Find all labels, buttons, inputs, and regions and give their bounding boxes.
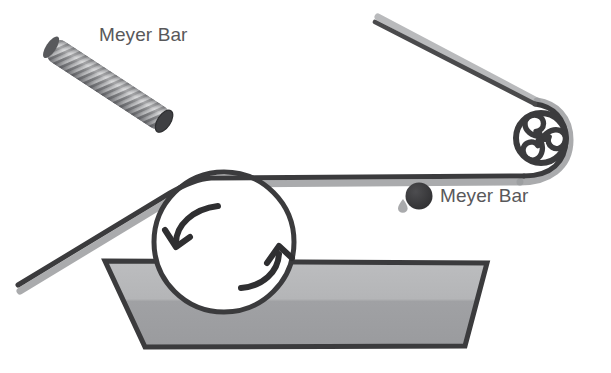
meyer-bar-coating-diagram: Meyer Bar Meyer Bar [0,0,611,373]
grooved-pinwheel-roller [516,113,569,163]
meyer-bar-cross-section-dot [406,183,433,210]
meyer-bar-rod-label: Meyer Bar [99,24,188,46]
meyer-bar-section-label: Meyer Bar [440,185,529,207]
coating-droplet [398,199,408,213]
wire-wound-meyer-bar [40,34,176,135]
